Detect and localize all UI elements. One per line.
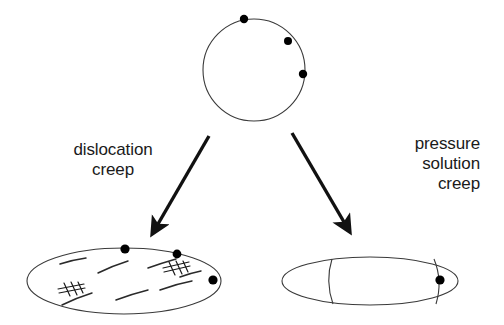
dislocation-creep-label: dislocation creep bbox=[48, 140, 178, 180]
dislocation-curve bbox=[60, 258, 86, 264]
grain-marker-dot bbox=[299, 70, 307, 78]
arrow-to-pressure-solution-creep bbox=[292, 133, 344, 222]
grain-marker-dot bbox=[435, 275, 444, 284]
deformation-mechanism-diagram: dislocation creep pressure solution cree… bbox=[0, 0, 504, 325]
pressure-solution-creep-label: pressure solution creep bbox=[340, 134, 480, 194]
grain-marker-dot bbox=[284, 37, 292, 45]
dislocation-tangle-right bbox=[163, 261, 190, 275]
dislocation-curve bbox=[116, 290, 148, 300]
dislocation-tangle-left bbox=[58, 282, 85, 296]
undeformed-grain-group bbox=[203, 15, 307, 121]
grain-marker-dot bbox=[120, 244, 129, 253]
grain-marker-dot bbox=[173, 250, 182, 259]
grain-marker-dot bbox=[240, 15, 248, 23]
dislocation-curve bbox=[180, 271, 201, 277]
pressure-solution-grain-group bbox=[282, 257, 458, 305]
dislocation-curve bbox=[160, 281, 192, 290]
undeformed-grain-outline bbox=[203, 19, 305, 121]
dislocation-grain-group bbox=[27, 244, 221, 314]
dislocation-curve bbox=[98, 261, 128, 273]
grain-marker-dot bbox=[208, 275, 217, 284]
solution-boundary-curve bbox=[329, 259, 333, 304]
pressure-solution-grain-outline bbox=[282, 257, 458, 305]
dislocation-curves-group bbox=[60, 258, 201, 305]
